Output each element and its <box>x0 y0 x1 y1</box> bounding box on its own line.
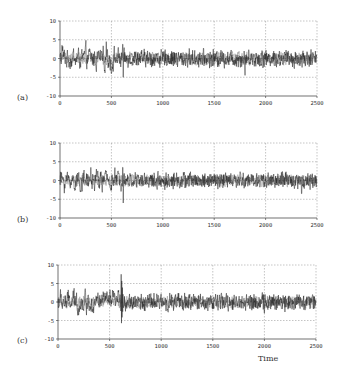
y-tick-label: 5 <box>51 281 54 287</box>
x-tick-label: 1000 <box>156 100 169 106</box>
y-tick-label: 10 <box>49 18 56 24</box>
x-tick-label: 500 <box>106 222 116 228</box>
x-tick-label: 0 <box>58 100 61 106</box>
x-tick-label: 2000 <box>259 222 272 228</box>
y-tick-label: -10 <box>46 215 56 221</box>
y-tick-label: 10 <box>49 140 56 146</box>
x-tick-label: 500 <box>105 343 115 349</box>
x-tick-label: 1500 <box>208 100 221 106</box>
x-tick-label: 0 <box>56 343 59 349</box>
y-tick-label: -5 <box>49 74 56 80</box>
y-tick-label: 0 <box>53 56 56 62</box>
x-tick-label: 2500 <box>310 222 323 228</box>
y-tick-label: 10 <box>47 262 54 268</box>
y-tick-label: -5 <box>47 318 54 324</box>
panel-a-label: (a) <box>17 93 28 102</box>
x-tick-label: 2000 <box>258 343 271 349</box>
panel-b-chart: -10-5051005001000150020002500(b) <box>17 140 324 228</box>
x-tick-label: 1500 <box>208 222 221 228</box>
panel-c-label: (c) <box>17 336 28 345</box>
panel-b-label: (b) <box>17 215 28 224</box>
x-tick-label: 2000 <box>259 100 272 106</box>
x-tick-label: 1500 <box>206 343 219 349</box>
panel-a-chart: -10-5051005001000150020002500(a) <box>17 18 324 106</box>
y-tick-label: -5 <box>49 196 56 202</box>
x-tick-label: 2500 <box>310 100 323 106</box>
time-series-figure: -10-5051005001000150020002500(a)-10-5051… <box>0 0 343 382</box>
y-tick-label: 0 <box>51 299 54 305</box>
y-tick-label: 5 <box>53 37 56 43</box>
panel-c-chart: -10-5051005001000150020002500(c)Time <box>17 262 323 363</box>
x-tick-label: 1000 <box>156 222 169 228</box>
y-tick-label: 0 <box>53 178 56 184</box>
panel-a-series-line <box>60 40 317 77</box>
x-tick-label: 1000 <box>155 343 168 349</box>
y-tick-label: -10 <box>46 93 56 99</box>
x-tick-label: 500 <box>106 100 116 106</box>
x-axis-title: Time <box>258 354 278 363</box>
x-tick-label: 2500 <box>309 343 322 349</box>
y-tick-label: 5 <box>53 159 56 165</box>
panel-b-series-line <box>60 167 317 203</box>
x-tick-label: 0 <box>58 222 61 228</box>
y-tick-label: -10 <box>44 336 54 342</box>
